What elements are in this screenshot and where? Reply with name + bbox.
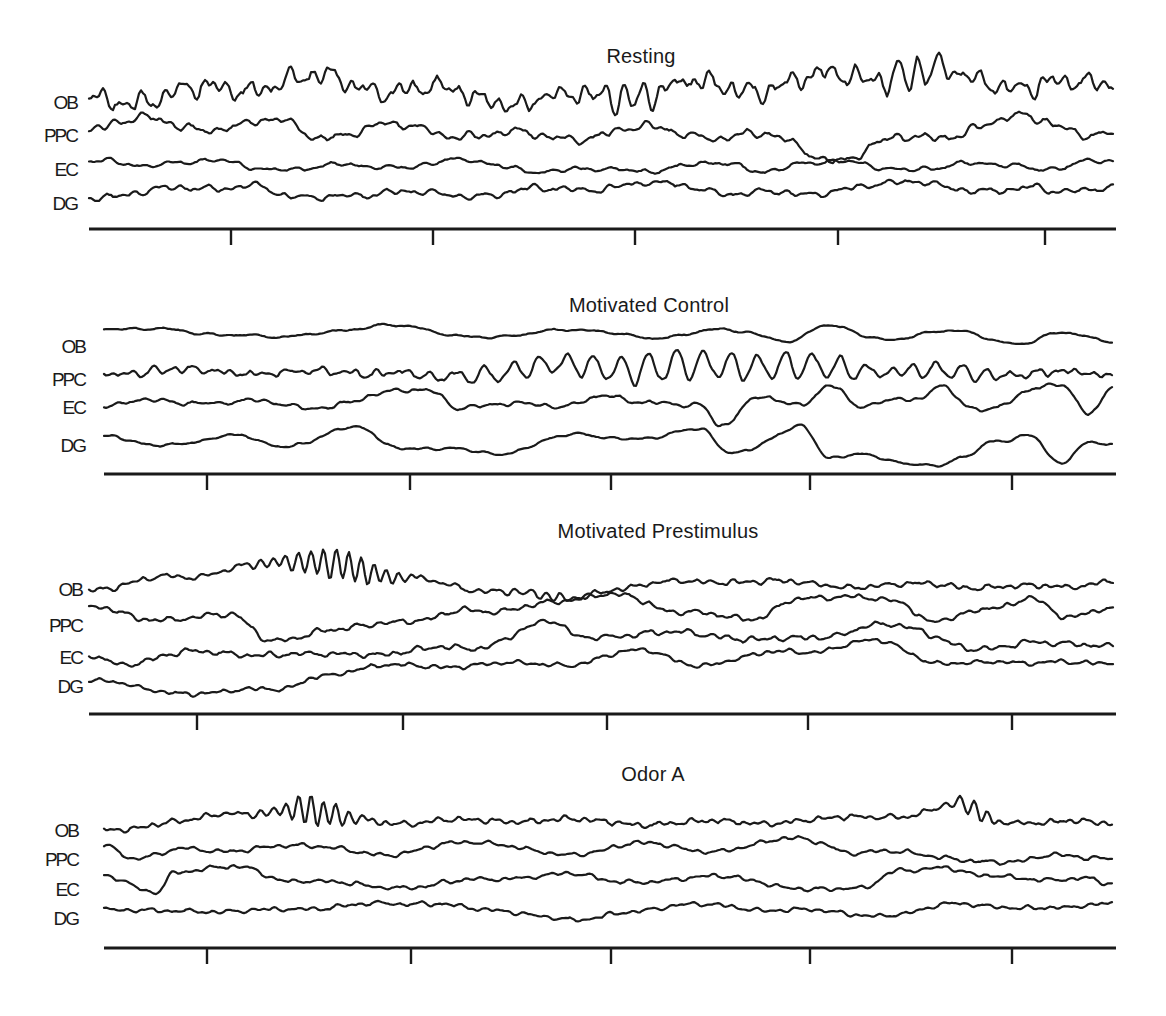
trace-ec — [89, 158, 1113, 174]
panel-title-motivated-control: Motivated Control — [569, 294, 729, 317]
trace-ppc — [89, 593, 1113, 642]
channel-label-ob: OB — [25, 336, 85, 358]
panel-3 — [104, 796, 1116, 964]
channel-label-ob: OB — [18, 820, 78, 842]
channel-label-dg: DG — [17, 193, 77, 215]
panel-2 — [89, 550, 1116, 730]
panel-title-resting: Resting — [606, 45, 675, 68]
channel-label-ec: EC — [22, 647, 82, 669]
trace-ob — [89, 550, 1113, 601]
panel-title-odor-a: Odor A — [621, 763, 684, 786]
channel-label-ppc: PPC — [17, 125, 77, 147]
trace-dg — [104, 425, 1112, 467]
channel-label-ob: OB — [22, 579, 82, 601]
panel-0 — [89, 53, 1116, 245]
channel-label-dg: DG — [22, 676, 82, 698]
eeg-trace-figure — [0, 0, 1166, 1016]
trace-ec — [104, 865, 1112, 894]
channel-label-ob: OB — [17, 92, 77, 114]
trace-dg — [89, 639, 1113, 697]
trace-ppc — [104, 350, 1112, 386]
panel-1 — [104, 324, 1116, 490]
channel-label-dg: DG — [25, 435, 85, 457]
trace-ec — [104, 384, 1112, 427]
panel-title-motivated-prestimulus: Motivated Prestimulus — [558, 520, 759, 543]
trace-ob — [89, 53, 1113, 115]
trace-ppc — [89, 112, 1113, 163]
trace-dg — [89, 180, 1113, 201]
trace-ob — [104, 796, 1112, 833]
channel-label-ec: EC — [25, 397, 85, 419]
channel-label-ppc: PPC — [18, 849, 78, 871]
trace-ppc — [104, 836, 1112, 865]
channel-label-ppc: PPC — [25, 369, 85, 391]
channel-label-ppc: PPC — [22, 615, 82, 637]
channel-label-ec: EC — [17, 159, 77, 181]
trace-dg — [104, 901, 1112, 921]
channel-label-ec: EC — [18, 879, 78, 901]
channel-label-dg: DG — [18, 908, 78, 930]
trace-ob — [104, 324, 1112, 344]
trace-ec — [89, 620, 1113, 667]
